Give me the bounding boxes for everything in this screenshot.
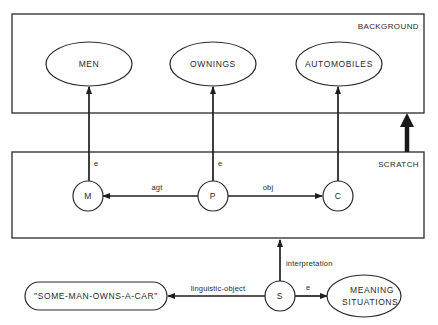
- node-m[interactable]: M: [73, 181, 103, 211]
- background-box-label: BACKGROUND: [358, 22, 419, 31]
- node-s[interactable]: S: [265, 281, 295, 311]
- concept-automobiles[interactable]: AUTOMOBILES: [296, 42, 382, 86]
- concept-men[interactable]: MEN: [46, 42, 132, 86]
- node-s-label: S: [277, 291, 283, 301]
- edge-p-to-ownings-label: e: [218, 159, 222, 168]
- string-node[interactable]: "SOME-MAN-OWNS-A-CAR": [25, 282, 167, 310]
- edge-m-to-men-label: e: [94, 159, 98, 168]
- concept-men-label: MEN: [79, 59, 100, 69]
- edge-obj-label: obj: [263, 183, 274, 192]
- node-c[interactable]: C: [323, 181, 353, 211]
- concept-ownings[interactable]: OWNINGS: [170, 42, 256, 86]
- concept-automobiles-label: AUTOMOBILES: [305, 59, 373, 69]
- meaning-situations-node[interactable]: MEANING SITUATIONS: [327, 275, 401, 317]
- concept-ownings-label: OWNINGS: [190, 59, 236, 69]
- node-p-label: P: [210, 191, 216, 201]
- edge-interpretation-label: interpretation: [286, 259, 333, 268]
- meaning-situations-line1: MEANING: [350, 285, 394, 295]
- edge-linguistic-object-label: linguistic-object: [191, 284, 246, 293]
- string-node-label: "SOME-MAN-OWNS-A-CAR": [34, 291, 158, 301]
- scratch-box-label: SCRATCH: [378, 160, 419, 169]
- meaning-situations-line2: SITUATIONS: [342, 297, 398, 307]
- node-p[interactable]: P: [198, 181, 228, 211]
- node-c-label: C: [335, 191, 342, 201]
- edge-agt-label: agt: [151, 183, 163, 192]
- edge-s-to-meaning-label: e: [306, 283, 310, 292]
- node-m-label: M: [84, 191, 92, 201]
- semantic-network-diagram: BACKGROUND MEN OWNINGS AUTOMOBILES SCRAT…: [0, 0, 438, 325]
